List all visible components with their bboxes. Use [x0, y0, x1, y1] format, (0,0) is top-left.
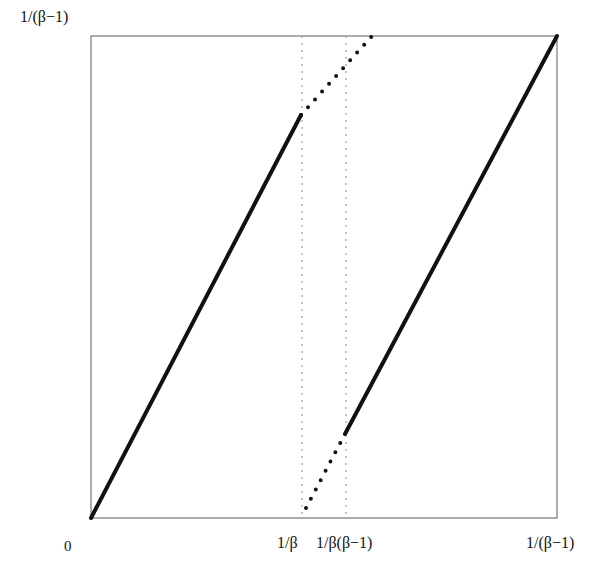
x-axis-label-1-over-beta-beta-minus-1: 1/β(β−1) [316, 534, 372, 552]
solid-branch-2 [345, 36, 557, 434]
y-axis-top-label: 1/(β−1) [20, 8, 68, 26]
plot-canvas [0, 0, 601, 580]
plot-frame [91, 36, 557, 518]
x-axis-label-0: 0 [64, 538, 72, 555]
dotted-branch-2 [306, 434, 345, 508]
solid-branch-1 [91, 115, 301, 518]
x-axis-label-1-over-beta: 1/β [277, 534, 298, 552]
x-axis-label-1-over-beta-minus-1: 1/(β−1) [526, 534, 574, 552]
dotted-branch-1 [301, 36, 372, 115]
